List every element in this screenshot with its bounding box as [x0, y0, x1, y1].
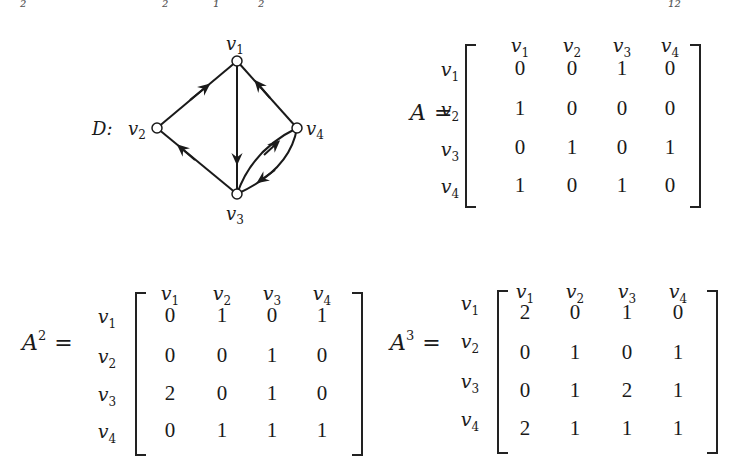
matrix-cell: 0 [257, 303, 287, 328]
matrix-cell: 0 [612, 340, 642, 365]
right-bracket [352, 292, 363, 456]
matrix-cell: 0 [307, 343, 337, 368]
matrix-cell: 0 [655, 96, 685, 121]
arc-v3-v2 [157, 128, 237, 194]
matrix-cell: 1 [612, 416, 642, 441]
matrix-cell: 1 [663, 378, 693, 403]
matrix-cell: 0 [557, 56, 587, 81]
matrix-cell: 1 [257, 418, 287, 443]
row-header: v3 [92, 383, 122, 409]
row-header: v3 [435, 138, 465, 164]
matrix-cell: 1 [207, 418, 237, 443]
vertex-label-v2: v2 [128, 118, 146, 142]
matrix-cell: 1 [257, 381, 287, 406]
matrix-label: A2= [22, 328, 73, 355]
arc-v4-v3 [237, 128, 297, 194]
matrix-cell: 1 [663, 416, 693, 441]
matrix-cell: 0 [510, 340, 540, 365]
matrix-cell: 0 [155, 418, 185, 443]
row-header: v2 [92, 345, 122, 371]
arc-v3-v4 [237, 128, 297, 194]
vertex-v3 [232, 189, 242, 199]
row-header: v1 [92, 305, 122, 331]
matrix-cell: 0 [557, 96, 587, 121]
matrix-cell: 1 [607, 173, 637, 198]
row-header: v4 [435, 175, 465, 201]
matrix-cell: 0 [207, 381, 237, 406]
right-bracket [690, 44, 701, 208]
left-bracket [135, 292, 146, 456]
row-header: v4 [92, 420, 122, 446]
digraph-label: D: [91, 118, 113, 139]
matrix-cell: 0 [207, 343, 237, 368]
matrix-cell: 1 [257, 343, 287, 368]
matrix-label: A3= [390, 328, 441, 355]
vertex-v2 [152, 123, 162, 133]
matrix-cell: 1 [655, 135, 685, 160]
matrix-cell: 0 [155, 343, 185, 368]
matrix-cell: 0 [655, 56, 685, 81]
vertex-label-v4: v4 [306, 118, 324, 142]
row-header: v2 [435, 98, 465, 124]
right-bracket [707, 290, 718, 454]
row-header: v3 [455, 370, 485, 396]
matrix-cell: 0 [663, 300, 693, 325]
matrix-cell: 1 [307, 418, 337, 443]
vertex-label-v3: v3 [226, 203, 244, 227]
matrix-cell: 0 [505, 56, 535, 81]
vertex-label-v1: v1 [226, 33, 244, 57]
row-header: v1 [435, 58, 465, 84]
matrix-cell: 0 [607, 96, 637, 121]
matrix-cell: 0 [505, 135, 535, 160]
row-header: v2 [455, 330, 485, 356]
matrix-cell: 2 [510, 416, 540, 441]
matrix-cell: 0 [607, 135, 637, 160]
matrix-cell: 1 [560, 340, 590, 365]
matrix-cell: 1 [557, 135, 587, 160]
row-header: v1 [455, 292, 485, 318]
row-header: v4 [455, 408, 485, 434]
matrix-cell: 0 [655, 173, 685, 198]
matrix-cell: 2 [612, 378, 642, 403]
matrix-cell: 1 [612, 300, 642, 325]
matrix-cell: 0 [510, 378, 540, 403]
matrix-cell: 2 [155, 381, 185, 406]
matrix-cell: 1 [505, 96, 535, 121]
matrix-cell: 1 [607, 56, 637, 81]
matrix-cell: 1 [307, 303, 337, 328]
matrix-cell: 1 [207, 303, 237, 328]
matrix-cell: 1 [663, 340, 693, 365]
matrix-cell: 1 [505, 173, 535, 198]
matrix-cell: 0 [560, 300, 590, 325]
matrix-cell: 2 [510, 300, 540, 325]
matrix-cell: 1 [560, 378, 590, 403]
left-bracket [465, 44, 476, 208]
vertex-v4 [292, 123, 302, 133]
matrix-cell: 1 [560, 416, 590, 441]
matrix-cell: 0 [155, 303, 185, 328]
vertex-v1 [232, 56, 242, 66]
matrix-cell: 0 [307, 381, 337, 406]
matrix-cell: 0 [557, 173, 587, 198]
left-bracket [497, 290, 508, 454]
